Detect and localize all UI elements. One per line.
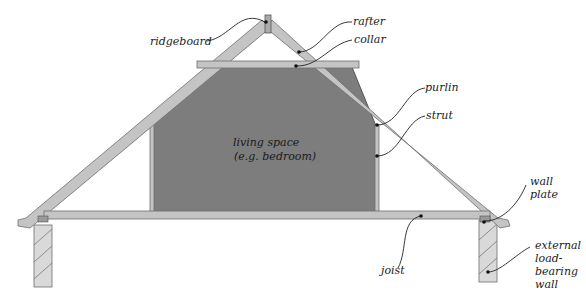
label-wall-plate-line2: plate	[530, 189, 558, 201]
ridgeboard	[265, 15, 271, 33]
roof-diagram: ridgeboard rafter collar purlin strut wa…	[0, 0, 586, 296]
collar-tie	[197, 61, 359, 68]
right-strut	[375, 125, 379, 212]
label-living-space-line2: (e.g. bedroom)	[234, 150, 316, 163]
label-strut: strut	[426, 110, 453, 122]
label-rafter: rafter	[353, 16, 385, 28]
left-external-wall	[34, 225, 52, 287]
label-wall-line2: load-	[535, 253, 562, 265]
label-ridgeboard: ridgeboard	[150, 36, 212, 48]
label-purlin: purlin	[425, 82, 459, 94]
label-wall-plate-line1: wall	[530, 176, 553, 188]
label-wall-line1: external	[535, 240, 581, 252]
left-wall-plate	[38, 216, 48, 222]
ceiling-joist	[44, 211, 490, 219]
label-wall-line3: bearing	[535, 266, 578, 278]
label-wall-line4: wall	[535, 279, 558, 291]
label-living-space-line1: living space	[233, 136, 299, 149]
left-strut	[150, 124, 154, 212]
label-joist: joist	[381, 265, 405, 277]
label-collar: collar	[354, 34, 386, 46]
